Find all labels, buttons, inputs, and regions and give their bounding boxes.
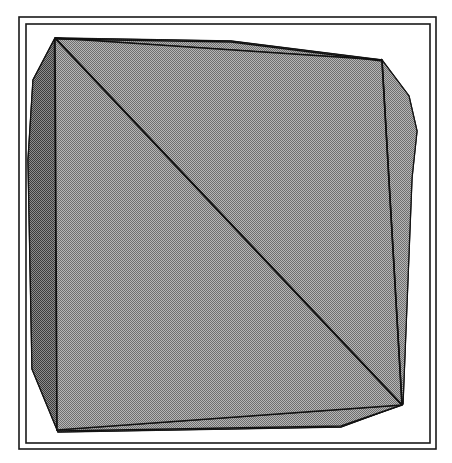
figure-root — [0, 0, 452, 463]
polyhedron-figure-canvas — [0, 0, 452, 463]
polyhedron-front-face — [55, 38, 402, 430]
